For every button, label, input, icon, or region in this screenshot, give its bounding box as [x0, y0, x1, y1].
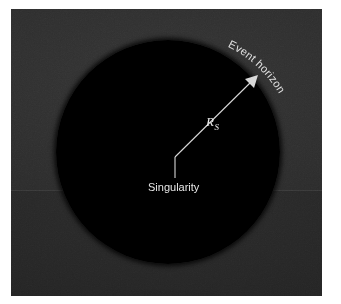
figure-root: RS Singularity Event horizon — [0, 0, 341, 304]
black-hole-diagram-panel: RS Singularity Event horizon — [11, 9, 322, 296]
event-horizon-label: Event horizon — [227, 38, 288, 96]
schwarzschild-radius-label: RS — [205, 114, 219, 132]
annotation-layer: RS Singularity Event horizon — [11, 9, 322, 296]
singularity-label: Singularity — [148, 181, 200, 193]
schwarzschild-radius-arrow — [175, 75, 258, 157]
